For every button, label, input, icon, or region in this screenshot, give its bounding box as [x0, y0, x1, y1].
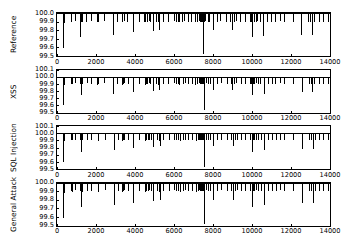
data-spike [114, 183, 115, 205]
data-spike [174, 183, 175, 191]
x-tick-label-3-7: 14000 [310, 228, 350, 235]
figure-canvas: Reference100.099.999.899.799.699.5020004… [0, 0, 355, 250]
y-axis-label-3: General Attack [8, 182, 19, 227]
data-spike [221, 183, 222, 191]
data-spike [227, 183, 228, 192]
data-spike [280, 183, 281, 191]
data-spike [210, 183, 211, 192]
data-spike [188, 183, 189, 192]
data-spike [91, 183, 92, 192]
data-spike [151, 183, 152, 192]
data-spike [237, 183, 238, 191]
x-tick-label-3-3: 6000 [154, 228, 194, 235]
data-spike [217, 183, 218, 192]
plot-area-3 [56, 182, 331, 227]
data-spike [157, 183, 158, 192]
data-spike [254, 183, 255, 192]
data-spike [284, 183, 285, 192]
data-spike [268, 183, 269, 192]
y-tick-mark-3-2 [56, 200, 59, 201]
data-spike [176, 183, 177, 192]
data-spike [258, 183, 259, 192]
data-spike [75, 183, 76, 191]
data-spike [118, 183, 119, 192]
data-spike [315, 183, 316, 192]
y-tick-label-3-1: 99.9 [39, 188, 54, 195]
data-spike [160, 183, 161, 200]
y-tick-mark-3-4 [56, 217, 59, 218]
x-tick-label-3-4: 8000 [193, 228, 233, 235]
data-spike [256, 183, 257, 191]
data-spike [87, 183, 88, 192]
y-tick-label-3-4: 99.6 [39, 214, 54, 221]
data-spike [233, 183, 234, 200]
y-tick-label-3-2: 99.8 [39, 196, 54, 203]
data-spike [272, 183, 273, 192]
data-spike [328, 183, 329, 192]
x-tick-label-3-1: 2000 [76, 228, 116, 235]
data-spike [309, 183, 310, 192]
x-tick-label-3-0: 0 [37, 228, 77, 235]
data-spike [183, 183, 184, 192]
data-spike [323, 183, 324, 192]
data-spike [213, 183, 214, 200]
y-tick-label-3-0: 100.0 [35, 179, 54, 186]
data-spike [245, 183, 246, 192]
data-spike [313, 183, 314, 204]
data-series-3 [57, 183, 330, 226]
data-spike [163, 183, 164, 192]
data-spike [133, 183, 134, 204]
data-spike [302, 183, 303, 204]
data-spike [105, 183, 106, 191]
data-spike [276, 183, 277, 192]
data-spike [64, 183, 65, 193]
data-spike [169, 183, 170, 192]
data-spike [98, 183, 99, 192]
data-spike [293, 183, 294, 192]
data-spike [206, 183, 207, 191]
data-spike [192, 183, 193, 192]
x-tick-label-3-5: 10000 [232, 228, 272, 235]
data-spike [146, 183, 147, 192]
data-spike [235, 183, 236, 192]
data-spike [128, 183, 129, 192]
data-spike [139, 183, 140, 192]
data-spike [261, 183, 262, 192]
data-spike [82, 183, 83, 192]
data-spike [72, 183, 73, 192]
y-tick-mark-3-1 [56, 191, 59, 192]
data-spike [196, 183, 197, 192]
data-spike [208, 183, 209, 192]
y-tick-mark-3-3 [56, 208, 59, 209]
y-tick-label-3-3: 99.7 [39, 205, 54, 212]
data-spike [311, 183, 312, 192]
data-spike [264, 183, 265, 205]
chart-panel-general-attack: General Attack100.099.999.899.799.699.50… [0, 0, 355, 250]
y-tick-mark-3-0 [56, 183, 59, 184]
data-spike [185, 183, 186, 191]
data-spike [319, 183, 320, 192]
x-tick-label-3-6: 12000 [271, 228, 311, 235]
data-spike [241, 183, 242, 192]
data-spike [180, 183, 181, 192]
data-spike [153, 183, 154, 202]
data-spike [124, 183, 125, 191]
x-tick-label-3-2: 4000 [115, 228, 155, 235]
